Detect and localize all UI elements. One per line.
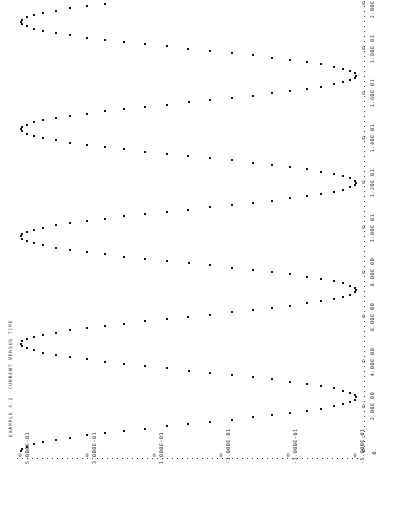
time-axis: 02.00E 0101.80E 0101.60E 0101.40E 0101.2… xyxy=(361,0,401,514)
value-axis-tick: 05.000E-01 xyxy=(21,448,22,468)
value-axis: 05.000E-0103.000E-0101.000E-010-1.000E-0… xyxy=(16,448,361,514)
value-axis-tick: 01.000E-01 xyxy=(155,448,156,468)
time-tick-marker: 0 xyxy=(362,359,365,364)
time-tick-label: 2.00E 00 xyxy=(369,392,375,420)
value-tick-marker: 0 xyxy=(286,453,289,458)
value-tick-label: -1.000E-01 xyxy=(225,428,231,464)
time-tick-marker: 0 xyxy=(362,91,365,96)
time-tick-label: 1.20E 01 xyxy=(369,169,375,197)
time-tick-label: 1.40E 01 xyxy=(369,124,375,152)
time-axis-tick: 02.00E 01 xyxy=(361,4,401,5)
value-tick-marker: 0 xyxy=(353,453,356,458)
page-title: EXAMPLE 4.2 CURRENT VERSUS TIME xyxy=(8,320,13,437)
time-tick-label: 1.80E 01 xyxy=(369,34,375,62)
plot-area xyxy=(16,0,361,455)
time-axis-tick: 04.00E 00 xyxy=(361,362,401,363)
time-axis-tick: 01.00E 01 xyxy=(361,228,401,229)
value-tick-marker: 0 xyxy=(152,453,155,458)
time-tick-label: 1.00E 01 xyxy=(369,213,375,241)
value-axis-tick: 0-5.000E-01 xyxy=(356,448,357,468)
value-tick-label: 5.000E-01 xyxy=(24,432,30,464)
time-axis-tick: 01.60E 01 xyxy=(361,93,401,94)
plot-title-container: EXAMPLE 4.2 CURRENT VERSUS TIME xyxy=(0,0,16,514)
time-tick-marker: 0 xyxy=(362,404,365,409)
time-tick-marker: 0 xyxy=(362,448,365,453)
value-axis-rule xyxy=(16,457,361,460)
time-axis-tick: 06.00E 00 xyxy=(361,317,401,318)
time-axis-tick: 02.00E 00 xyxy=(361,406,401,407)
time-tick-marker: 0 xyxy=(362,225,365,230)
value-tick-marker: 0 xyxy=(18,453,21,458)
value-axis-tick: 03.000E-01 xyxy=(88,448,89,468)
time-tick-label: 0. xyxy=(371,447,377,454)
time-tick-label: 2.00E 01 xyxy=(369,0,375,18)
time-axis-tick: 01.40E 01 xyxy=(361,138,401,139)
scatter-plot-canvas xyxy=(16,0,361,455)
time-tick-marker: 0 xyxy=(362,46,365,51)
time-tick-label: 4.00E 00 xyxy=(369,347,375,375)
time-axis-tick: 01.80E 01 xyxy=(361,49,401,50)
time-tick-label: 8.00E 00 xyxy=(369,258,375,286)
time-tick-marker: 0 xyxy=(362,270,365,275)
value-tick-marker: 0 xyxy=(85,453,88,458)
time-tick-label: 1.60E 01 xyxy=(369,79,375,107)
time-tick-label: 6.00E 00 xyxy=(369,303,375,331)
value-axis-tick: 0-1.000E-01 xyxy=(222,448,223,468)
time-tick-marker: 0 xyxy=(362,136,365,141)
value-tick-label: 1.000E-01 xyxy=(158,432,164,464)
time-axis-tick: 00. xyxy=(361,451,401,452)
time-tick-marker: 0 xyxy=(362,314,365,319)
value-tick-label: -3.000E-01 xyxy=(292,428,298,464)
value-tick-marker: 0 xyxy=(219,453,222,458)
value-axis-tick: 0-3.000E-01 xyxy=(289,448,290,468)
time-axis-tick: 08.00E 00 xyxy=(361,272,401,273)
time-axis-tick: 01.20E 01 xyxy=(361,183,401,184)
time-tick-marker: 0 xyxy=(362,180,365,185)
time-tick-marker: 0 xyxy=(362,1,365,6)
value-tick-label: 3.000E-01 xyxy=(91,432,97,464)
